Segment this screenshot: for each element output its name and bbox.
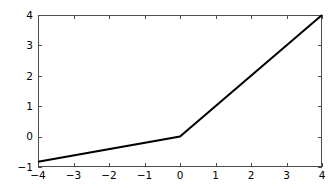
- x-tick-label: 2: [248, 169, 255, 181]
- x-tick-label: 4: [319, 169, 326, 181]
- y-tick-label: 2: [26, 70, 33, 82]
- y-tick-label: 4: [26, 9, 33, 21]
- x-tick-label: −1: [137, 169, 152, 181]
- y-tick-label: −1: [18, 161, 33, 173]
- x-tick-label: −3: [66, 169, 81, 181]
- x-tick-label: 0: [177, 169, 184, 181]
- axes-background: [38, 15, 322, 167]
- y-tick-label: 3: [26, 39, 33, 51]
- matplotlib-figure: −4−3−2−101234 −101234: [0, 0, 336, 189]
- y-tick-label: 1: [26, 100, 33, 112]
- x-tick-label: 3: [283, 169, 290, 181]
- plot-canvas: −4−3−2−101234 −101234: [0, 0, 336, 189]
- y-tick-label: 0: [26, 130, 33, 142]
- x-tick-label: 1: [212, 169, 219, 181]
- x-tick-label: −2: [101, 169, 116, 181]
